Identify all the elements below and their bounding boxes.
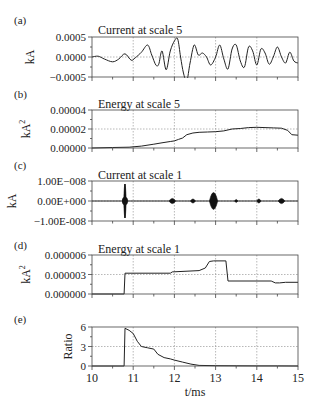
panel-label: (b) [14, 88, 27, 101]
x-tick-label: 14 [251, 371, 263, 385]
panel-e: (e)630Ratio101112131415t/ms [14, 313, 304, 399]
y-axis-label: kA2 [18, 265, 33, 284]
y-tick-label: 0.00004 [50, 104, 86, 116]
y-tick-label: 0.000003 [45, 269, 87, 281]
burst-core [122, 197, 128, 205]
figure: (a)Current at scale 50.00050.0000−0.0005… [0, 0, 315, 412]
x-tick-label: 13 [210, 371, 222, 385]
x-tick-label: 12 [168, 371, 180, 385]
y-axis-label: kA [23, 49, 37, 64]
y-axis-label: Ratio [61, 334, 75, 360]
y-tick-label: 0.000006 [45, 249, 87, 261]
y-tick-label: 0.000000 [45, 288, 87, 300]
panel-title: Current at scale 1 [98, 168, 182, 182]
y-tick-label: 0.00002 [50, 123, 86, 135]
y-axis-label: kA [5, 193, 19, 208]
y-tick-label: −1.00E-008 [34, 215, 87, 227]
burst [209, 193, 217, 210]
y-tick-label: 0.00E+000 [37, 195, 86, 207]
x-tick-label: 15 [292, 371, 304, 385]
y-tick-label: 1.00E−008 [37, 175, 86, 187]
data-series [92, 261, 298, 294]
panel-title: Energy at scale 5 [98, 97, 180, 111]
x-axis-label: t/ms [185, 385, 206, 399]
panel-label: (d) [14, 239, 27, 252]
panel-c: (c)Current at scale 11.00E−0080.00E+000−… [5, 159, 298, 227]
burst [235, 200, 238, 203]
panel-d: (d)Energy at scale 10.0000060.0000030.00… [14, 239, 298, 300]
panel-a: (a)Current at scale 50.00050.0000−0.0005… [14, 14, 298, 83]
panel-label: (a) [14, 14, 27, 27]
panel-title: Current at scale 5 [98, 23, 182, 37]
data-series [92, 38, 298, 81]
y-tick-label: 0.0000 [56, 51, 87, 63]
y-tick-label: 6 [81, 321, 87, 333]
burst [278, 198, 285, 203]
burst [257, 199, 261, 203]
y-tick-label: 0.0005 [56, 31, 87, 43]
panel-b: (b)Energy at scale 50.000040.000020.0000… [14, 88, 298, 154]
data-series [92, 328, 298, 366]
data-series [92, 127, 298, 148]
y-tick-label: 3 [81, 341, 87, 353]
x-tick-label: 11 [127, 371, 139, 385]
panel-label: (c) [14, 159, 27, 172]
y-axis-label: kA2 [18, 120, 33, 139]
panel-title: Energy at scale 1 [98, 242, 180, 256]
panel-label: (e) [14, 313, 27, 326]
y-tick-label: 0.00000 [50, 142, 86, 154]
burst [190, 199, 195, 203]
x-tick-label: 10 [86, 371, 98, 385]
y-tick-label: −0.0005 [50, 71, 87, 83]
